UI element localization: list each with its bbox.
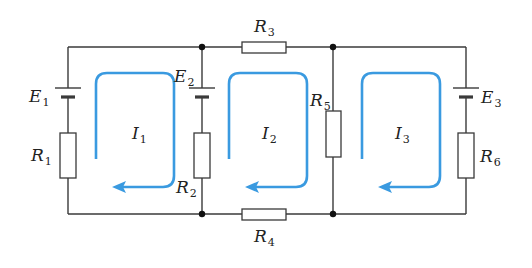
label-e3: E3 <box>481 89 501 109</box>
junction-node <box>330 211 336 217</box>
label-i1: I1 <box>132 125 147 145</box>
resistor-r3 <box>242 42 286 53</box>
label-r6: R6 <box>480 148 501 168</box>
battery-e2 <box>189 88 215 97</box>
label-r5: R5 <box>310 92 331 112</box>
label-e1: E1 <box>29 88 49 108</box>
resistor-r2 <box>194 133 210 178</box>
battery-e3 <box>453 88 479 97</box>
circuit-diagram: E1 E2 E3 R1 R2 R3 R4 R5 R6 I1 I2 I3 <box>0 0 532 268</box>
label-r1: R1 <box>31 147 52 167</box>
label-i3: I3 <box>395 125 410 145</box>
label-r3: R3 <box>254 18 275 38</box>
resistor-r6 <box>458 133 474 178</box>
label-e2: E2 <box>174 68 194 88</box>
battery-e1 <box>55 88 81 97</box>
junction-node <box>199 211 205 217</box>
resistor-r1 <box>60 133 76 178</box>
label-i2: I2 <box>262 125 277 145</box>
junction-node <box>330 44 336 50</box>
resistor-r5 <box>326 111 341 157</box>
resistor-r4 <box>242 209 286 220</box>
label-r4: R4 <box>254 228 275 248</box>
junction-node <box>199 44 205 50</box>
label-r2: R2 <box>176 179 197 199</box>
